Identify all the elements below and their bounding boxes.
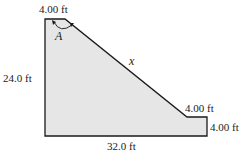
slant-label: x: [128, 54, 135, 68]
left-height-label: 24.0 ft: [3, 72, 32, 84]
step-width-label: 4.00 ft: [185, 102, 214, 114]
top-width-label: 4.00 ft: [39, 3, 68, 15]
bottom-width-label: 32.0 ft: [107, 140, 136, 152]
angle-label: A: [54, 29, 63, 43]
step-height-label: 4.00 ft: [210, 121, 239, 133]
shape-outline: [45, 19, 207, 136]
trapezoid-diagram: 4.00 ft A x 24.0 ft 4.00 ft 4.00 ft 32.0…: [0, 0, 244, 162]
